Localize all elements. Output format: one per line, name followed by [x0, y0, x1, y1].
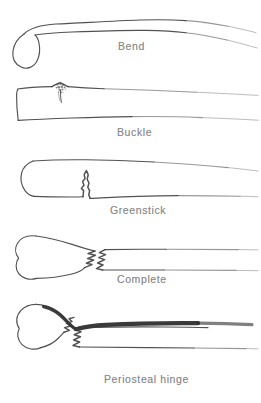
greenstick-upper-cortex	[33, 160, 154, 162]
hinge-lower-cortex-fade	[194, 348, 246, 349]
bend-lower-cortex-fade	[186, 33, 227, 40]
buckle-upper-cortex-fade	[104, 89, 196, 92]
label-buckle: Buckle	[117, 126, 152, 138]
buckle-lower-cortex-fade	[132, 117, 202, 118]
hinge-lower-cortex-proximal	[41, 332, 64, 347]
bend-upper-cortex	[24, 20, 186, 34]
label-bend: Bend	[118, 40, 145, 52]
buckle-proximal-end	[17, 89, 19, 120]
greenstick-upper-cortex-tail	[228, 168, 258, 171]
bend-upper-cortex-tail	[228, 26, 256, 32]
panel-greenstick: Greenstick	[0, 152, 261, 224]
buckle-upper-cortex-right	[68, 87, 104, 89]
bend-lower-cortex-tail	[227, 40, 257, 48]
hinge-periosteum-bridge	[76, 323, 198, 329]
complete-upper-cortex-proximal	[36, 236, 95, 251]
label-periosteal-hinge: Periosteal hinge	[104, 373, 189, 385]
buckle-compression-streak-2	[59, 92, 60, 101]
hinge-distal-cortex-inner	[82, 327, 208, 328]
complete-lower-cortex-proximal	[37, 268, 85, 279]
greenstick-lower-cortex-fade	[178, 196, 240, 197]
bend-proximal-metaphysis	[13, 34, 40, 68]
greenstick-upper-cortex-fade	[154, 162, 228, 168]
bend-bone-illustration	[0, 0, 261, 78]
fracture-pattern-figure: Bend	[0, 0, 261, 403]
greenstick-lower-cortex-distal	[90, 196, 178, 199]
complete-proximal-fragment-end	[85, 251, 96, 268]
greenstick-lower-cortex-proximal	[34, 196, 83, 197]
complete-distal-fragment-end	[96, 250, 105, 270]
complete-bone-illustration	[0, 225, 261, 297]
greenstick-fracture-line	[81, 171, 90, 199]
greenstick-proximal-metaphysis	[21, 161, 34, 196]
greenstick-lower-cortex-tail	[240, 196, 258, 197]
panel-complete: Complete	[0, 225, 261, 297]
bend-lower-cortex	[35, 30, 186, 35]
buckle-upper-cortex-tail	[196, 92, 258, 95]
hinge-proximal-epiphysis	[17, 305, 42, 350]
buckle-upper-cortex-left	[18, 87, 52, 89]
hinge-lower-cortex-distal	[79, 347, 194, 348]
hinge-periosteum-bridge-fade	[198, 323, 252, 324]
buckle-lower-cortex-tail	[202, 118, 258, 121]
buckle-lower-cortex	[18, 117, 132, 121]
label-greenstick: Greenstick	[110, 204, 166, 216]
complete-proximal-epiphysis	[16, 236, 37, 279]
panel-buckle: Buckle	[0, 76, 261, 146]
panel-periosteal-hinge: Periosteal hinge	[0, 296, 261, 386]
panel-bend: Bend	[0, 0, 261, 78]
bend-upper-cortex-fade	[186, 21, 228, 27]
label-complete: Complete	[117, 273, 167, 285]
